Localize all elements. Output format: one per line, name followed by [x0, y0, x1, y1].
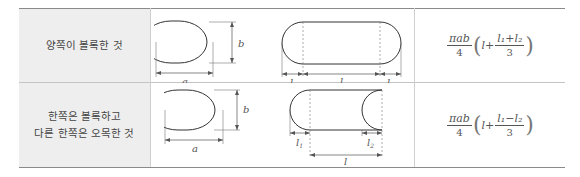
table-bottom-border [19, 167, 565, 168]
formula-convex-concave: πab 4 ( l + l₁−l₂ 3 ) [415, 83, 565, 167]
label-line: 다른 한쪽은 오목한 것 [34, 125, 134, 142]
dim-label-l1: l1 [290, 77, 297, 83]
formula-both-convex: πab 4 ( l + l₁+l₂ 3 ) [415, 9, 565, 82]
convex-concave-figure-row2: l1 l2 l [289, 86, 413, 166]
stadium-figure-row1: l1 l l2 [281, 11, 413, 83]
row-label-both-convex: 양쪽이 볼록한 것 [19, 9, 150, 82]
dim-label-l2: l2 [387, 77, 394, 83]
label-line: 양쪽이 볼록한 것 [46, 37, 123, 54]
dim-label-l: l [344, 156, 347, 166]
dim-label-b: b [243, 104, 249, 115]
dim-label-l1: l1 [296, 137, 303, 149]
dim-label-l2: l2 [367, 137, 374, 149]
dim-label-a: a [192, 143, 198, 154]
length-fraction: l₁+l₂ 3 [495, 32, 524, 59]
coefficient-fraction: πab 4 [447, 112, 472, 139]
label-line: 한쪽은 볼록하고 [48, 108, 121, 125]
dim-label-a: a [182, 76, 188, 83]
dim-label-b: b [238, 38, 244, 49]
dim-label-l: l [340, 76, 343, 83]
length-fraction: l₁−l₂ 3 [495, 112, 524, 139]
coefficient-fraction: πab 4 [447, 32, 472, 59]
oval-figure-row1: b a [154, 11, 279, 83]
row-label-convex-concave: 한쪽은 볼록하고 다른 한쪽은 오목한 것 [19, 83, 150, 167]
volume-formula-table: 양쪽이 볼록한 것 b a l1 l l2 πab 4 ( [19, 8, 565, 167]
column-divider-1 [150, 8, 151, 167]
oval-figure-row2: b a [164, 86, 284, 166]
